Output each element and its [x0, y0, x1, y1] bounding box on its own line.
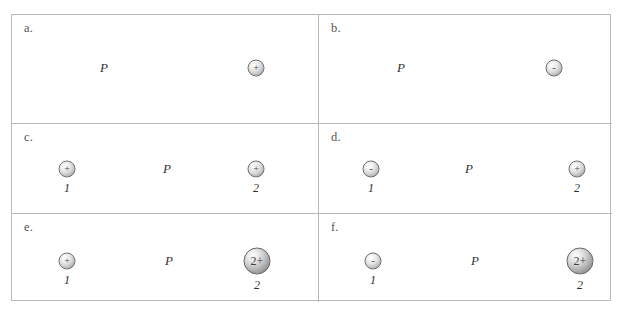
charge-number-f-1: 1 — [370, 273, 376, 288]
charge-number-c-1: 1 — [64, 181, 70, 196]
charge-number-d-2: 2 — [574, 181, 580, 196]
panel-grid: a. P + b. P - c. + 1 P + 2 — [11, 14, 611, 301]
charge-symbol-f-2: 2+ — [574, 255, 587, 267]
field-point-label-b: P — [397, 60, 405, 76]
charge-symbol-c-1: + — [64, 164, 70, 174]
charge-positive-e-1: + — [59, 253, 76, 270]
field-point-label-c: P — [163, 161, 171, 177]
charge-symbol-a: + — [253, 63, 259, 73]
panel-letter-e: e. — [24, 220, 33, 235]
panel-d: d. - 1 P + 2 — [318, 123, 612, 213]
charge-number-c-2: 2 — [253, 181, 259, 196]
field-point-label-a: P — [100, 60, 108, 76]
field-point-label-f: P — [471, 253, 479, 269]
charge-positive-a: + — [248, 60, 265, 77]
charge-positive-c-1: + — [59, 161, 76, 178]
charge-negative-b: - — [546, 60, 563, 77]
panel-a: a. P + — [12, 15, 318, 123]
charge-symbol-b: - — [552, 61, 556, 72]
charge-number-e-2: 2 — [254, 278, 260, 293]
charge-symbol-c-2: + — [253, 164, 259, 174]
panel-letter-a: a. — [24, 21, 33, 36]
panel-letter-c: c. — [24, 130, 33, 145]
charge-double-positive-e-2: 2+ — [244, 248, 271, 275]
charge-number-d-1: 1 — [368, 181, 374, 196]
charge-negative-d-1: - — [363, 161, 380, 178]
panel-c: c. + 1 P + 2 — [12, 123, 318, 213]
field-point-label-e: P — [165, 253, 173, 269]
charge-symbol-e-1: + — [64, 256, 70, 266]
charge-symbol-d-1: - — [369, 162, 373, 173]
charge-double-positive-f-2: 2+ — [567, 248, 594, 275]
charge-symbol-f-1: - — [371, 254, 375, 265]
charge-symbol-d-2: + — [574, 164, 580, 174]
charge-symbol-e-2: 2+ — [251, 255, 264, 267]
charge-negative-f-1: - — [365, 253, 382, 270]
panel-letter-d: d. — [331, 130, 341, 145]
panel-b: b. P - — [318, 15, 612, 123]
charge-number-f-2: 2 — [577, 278, 583, 293]
charge-positive-d-2: + — [569, 161, 586, 178]
panel-letter-f: f. — [331, 220, 339, 235]
charge-number-e-1: 1 — [64, 273, 70, 288]
panel-e: e. + 1 P 2+ 2 — [12, 213, 318, 302]
charge-positive-c-2: + — [248, 161, 265, 178]
panel-f: f. - 1 P 2+ 2 — [318, 213, 612, 302]
field-point-label-d: P — [465, 161, 473, 177]
figure-canvas: a. P + b. P - c. + 1 P + 2 — [0, 0, 623, 313]
panel-letter-b: b. — [331, 21, 341, 36]
